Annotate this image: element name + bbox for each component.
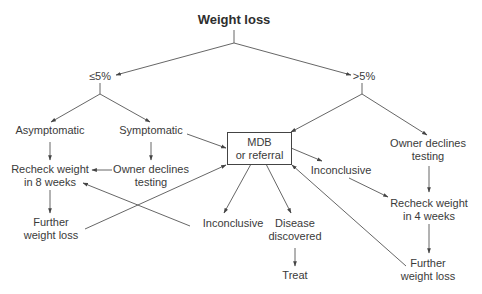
recheck-4-weeks-node: Recheck weight in 4 weeks: [390, 197, 468, 223]
inconclusive-right-node: Inconclusive: [311, 164, 372, 177]
owner-declines-right-line1: Owner declines: [390, 137, 466, 150]
recheck-4-line1: Recheck weight: [390, 197, 468, 210]
disease-line1: Disease: [268, 217, 321, 230]
disease-discovered-node: Disease discovered: [268, 217, 321, 243]
further-loss-left-node: Further weight loss: [24, 216, 78, 242]
owner-declines-left-line1: Owner declines: [113, 163, 189, 176]
root-weight-loss: Weight loss: [198, 13, 271, 26]
symptomatic-node: Symptomatic: [119, 124, 183, 137]
recheck-8-weeks-node: Recheck weight in 8 weeks: [11, 163, 89, 189]
further-loss-right-line1: Further: [401, 257, 455, 270]
owner-declines-left-node: Owner declines testing: [113, 163, 189, 189]
further-loss-right-node: Further weight loss: [401, 257, 455, 283]
further-loss-left-line2: weight loss: [24, 229, 78, 242]
recheck-8-line2: in 8 weeks: [11, 176, 89, 189]
mdb-line2: or referral: [236, 149, 284, 162]
owner-declines-right-line2: testing: [390, 150, 466, 163]
inconclusive-left-node: Inconclusive: [203, 217, 264, 230]
recheck-8-line1: Recheck weight: [11, 163, 89, 176]
branch-gt-5-percent: >5%: [353, 70, 375, 83]
further-loss-left-line1: Further: [24, 216, 78, 229]
mdb-referral-box: MDB or referral: [227, 132, 292, 165]
owner-declines-right-node: Owner declines testing: [390, 137, 466, 163]
flowchart: Weight loss ≤5% >5% Asymptomatic Symptom…: [0, 0, 482, 294]
owner-declines-left-line2: testing: [113, 176, 189, 189]
mdb-line1: MDB: [247, 136, 271, 149]
further-loss-right-line2: weight loss: [401, 270, 455, 283]
recheck-4-line2: in 4 weeks: [390, 210, 468, 223]
treat-node: Treat: [282, 269, 307, 282]
disease-line2: discovered: [268, 230, 321, 243]
branch-le-5-percent: ≤5%: [89, 70, 111, 83]
asymptomatic-node: Asymptomatic: [15, 124, 84, 137]
